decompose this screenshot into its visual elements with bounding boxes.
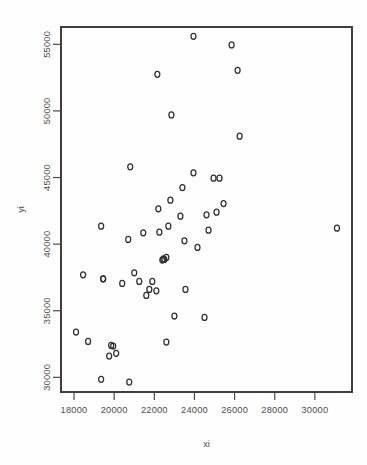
x-tick-label: 22000 [141,405,168,415]
x-tick-label: 26000 [221,405,248,415]
y-tick-label: 35000 [42,297,52,324]
y-axis-title: yi [16,206,26,213]
scatter-plot-figure: 18000200002200024000260002800030000 3000… [0,0,367,465]
x-tick-label: 20000 [101,405,128,415]
x-axis-title: xi [203,439,210,449]
x-tick-label: 28000 [261,405,288,415]
x-tick-label: 24000 [181,405,208,415]
x-tick-label: 30000 [301,405,328,415]
x-tick-label: 18000 [61,405,88,415]
y-tick-label: 50000 [42,97,52,124]
figure-background [0,0,367,465]
plot-canvas: 18000200002200024000260002800030000 3000… [0,0,367,465]
y-tick-label: 45000 [42,164,52,191]
y-tick-label: 40000 [42,231,52,258]
y-tick-label: 30000 [42,364,52,391]
y-tick-label: 55000 [42,31,52,58]
